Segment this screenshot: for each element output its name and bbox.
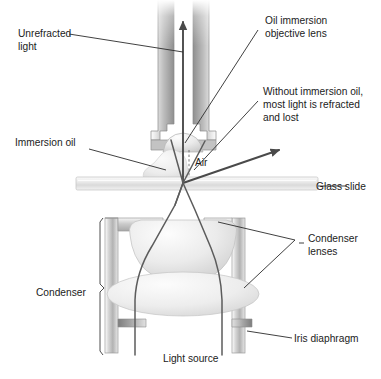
barrel-top-fade xyxy=(150,0,218,46)
label-without-oil-line3: and lost xyxy=(263,112,299,123)
leader-immersion-oil xyxy=(89,149,166,170)
diagram-page: Unrefracted light Immersion oil Oil imme… xyxy=(0,0,381,379)
label-objective-lens-line1: Oil immersion xyxy=(265,15,327,26)
objective-lens-assembly xyxy=(150,0,218,152)
leader-condenser-lower-lens xyxy=(244,240,295,288)
label-without-oil-line2: most light is refracted xyxy=(263,99,360,110)
condenser-bracket xyxy=(100,218,104,355)
label-immersion-oil: Immersion oil xyxy=(15,137,76,148)
label-glass-slide: Glass slide xyxy=(316,181,366,192)
condenser-lower-lens xyxy=(107,272,259,316)
label-unrefracted-light-line1: Unrefracted xyxy=(18,28,72,39)
label-light-source: Light source xyxy=(163,353,219,364)
label-condenser: Condenser xyxy=(36,287,86,298)
label-condenser-lenses-line1: Condenser xyxy=(308,233,358,244)
label-unrefracted-light-line2: light xyxy=(18,41,37,52)
leader-iris-diaphragm xyxy=(247,331,292,338)
label-objective-lens-line2: objective lens xyxy=(265,28,327,39)
label-iris-diaphragm: Iris diaphragm xyxy=(294,333,359,344)
label-air: Air xyxy=(195,157,208,168)
label-condenser-lenses-line2: lenses xyxy=(308,246,337,257)
label-without-oil-line1: Without immersion oil, xyxy=(263,86,363,97)
iris-diaphragm-shape xyxy=(118,319,252,327)
microscope-optics-diagram: Unrefracted light Immersion oil Oil imme… xyxy=(0,0,381,379)
